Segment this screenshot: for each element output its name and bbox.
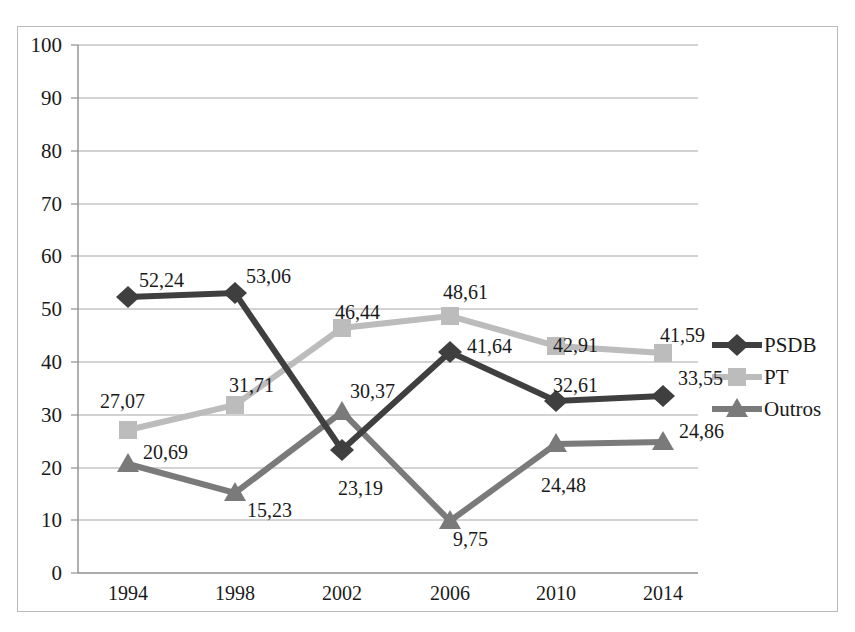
marker-pt-1994 xyxy=(119,421,137,439)
y-tick-100: 100 xyxy=(14,35,62,56)
series-outros-line xyxy=(128,412,663,521)
y-tick-70: 70 xyxy=(14,194,62,215)
data-label-outros-2002: 30,37 xyxy=(350,381,395,401)
series-pt xyxy=(119,307,672,439)
y-tick-80: 80 xyxy=(14,141,62,162)
data-label-outros-2010: 24,48 xyxy=(541,475,586,495)
y-tick-0: 0 xyxy=(14,563,62,584)
data-label-outros-1994: 20,69 xyxy=(143,442,188,462)
data-label-outros-2014: 24,86 xyxy=(679,421,724,441)
x-tick-1994: 1994 xyxy=(88,583,168,603)
data-label-pt-1998: 31,71 xyxy=(229,375,274,395)
data-label-psdb-1998: 53,06 xyxy=(246,266,291,286)
chart-figure: 100 90 80 70 60 50 40 30 20 10 0 1994 19… xyxy=(0,0,855,632)
x-tick-2014: 2014 xyxy=(623,583,703,603)
data-label-pt-2014: 41,59 xyxy=(660,325,705,345)
data-label-psdb-1994: 52,24 xyxy=(139,270,184,290)
data-label-psdb-2014: 33,55 xyxy=(678,368,723,388)
data-label-pt-1994: 27,07 xyxy=(100,391,145,411)
y-axis-ticks xyxy=(71,45,78,573)
marker-outros-2002 xyxy=(331,401,353,420)
data-label-psdb-2010: 32,61 xyxy=(553,375,598,395)
data-label-pt-2006: 48,61 xyxy=(443,282,488,302)
marker-psdb-1994 xyxy=(116,286,140,308)
y-tick-50: 50 xyxy=(14,299,62,320)
x-tick-2010: 2010 xyxy=(516,583,596,603)
marker-pt-1998 xyxy=(226,396,244,414)
series-pt-markers xyxy=(119,307,672,439)
data-label-psdb-2006: 41,64 xyxy=(467,336,512,356)
marker-outros-1994 xyxy=(117,453,139,472)
x-tick-2002: 2002 xyxy=(302,583,382,603)
data-label-pt-2002: 46,44 xyxy=(335,302,380,322)
y-tick-30: 30 xyxy=(14,405,62,426)
y-tick-90: 90 xyxy=(14,88,62,109)
marker-pt-2006 xyxy=(441,307,459,325)
marker-psdb-2014 xyxy=(651,385,675,407)
data-label-outros-2006: 9,75 xyxy=(453,529,488,549)
legend-swatch-psdb xyxy=(712,334,762,356)
y-tick-20: 20 xyxy=(14,458,62,479)
x-tick-2006: 2006 xyxy=(410,583,490,603)
legend-item-outros[interactable]: Outros xyxy=(764,399,821,420)
data-label-pt-2010: 42,91 xyxy=(553,335,598,355)
series-psdb-line xyxy=(128,293,663,450)
marker-pt-2014 xyxy=(654,344,672,362)
legend-item-psdb[interactable]: PSDB xyxy=(764,335,817,356)
series-outros xyxy=(117,401,674,529)
y-tick-60: 60 xyxy=(14,246,62,267)
legend-swatch-outros xyxy=(712,398,762,417)
data-label-psdb-2002: 23,19 xyxy=(338,478,383,498)
data-label-outros-1998: 15,23 xyxy=(247,500,292,520)
line-chart-plot xyxy=(0,0,855,632)
legend-item-pt[interactable]: PT xyxy=(764,367,789,388)
x-tick-1998: 1998 xyxy=(195,583,275,603)
y-tick-40: 40 xyxy=(14,352,62,373)
y-tick-10: 10 xyxy=(14,510,62,531)
